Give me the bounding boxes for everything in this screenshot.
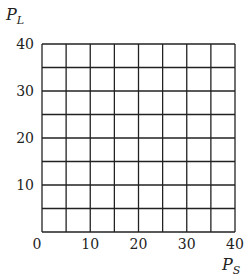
y-axis-label: PL (5, 5, 24, 27)
price-grid-chart: 010203040 10203040 PL PS (0, 0, 252, 280)
y-axis-tick-labels: 10203040 (16, 36, 34, 193)
x-tick-label: 40 (226, 236, 244, 252)
x-tick-label: 20 (130, 236, 148, 252)
y-tick-label: 10 (16, 177, 34, 193)
x-tick-label: 10 (81, 236, 99, 252)
y-tick-label: 30 (16, 83, 34, 99)
x-tick-label: 0 (33, 236, 42, 252)
grid-lines (42, 44, 235, 232)
x-axis-label: PS (221, 255, 241, 277)
x-tick-label: 30 (178, 236, 196, 252)
x-axis-tick-labels: 010203040 (33, 236, 244, 252)
chart-canvas: 010203040 10203040 PL PS (0, 0, 252, 280)
y-tick-label: 20 (16, 130, 34, 146)
y-tick-label: 40 (16, 36, 34, 52)
